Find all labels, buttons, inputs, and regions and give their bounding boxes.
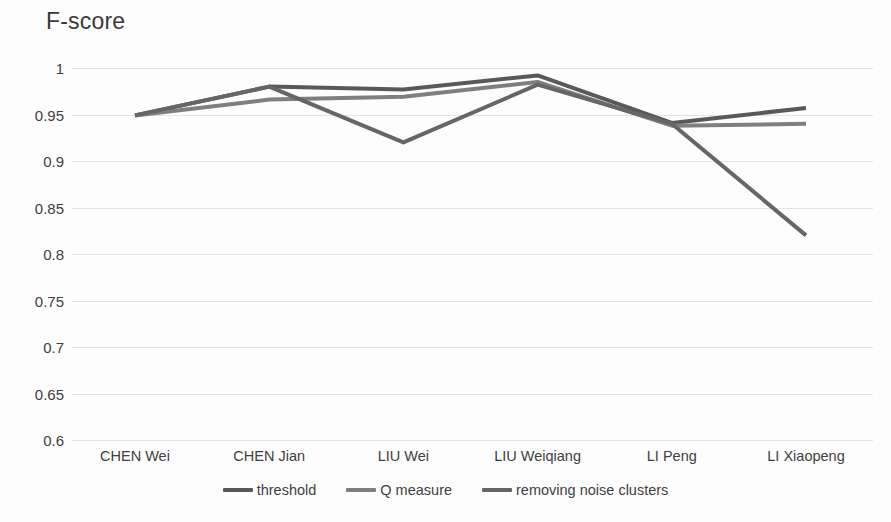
x-axis-tick-label: LI Xiaopeng <box>767 448 844 464</box>
series-line <box>135 85 806 236</box>
y-axis-tick-label: 0.65 <box>6 385 64 402</box>
y-axis-tick-label: 1 <box>6 60 64 77</box>
f-score-line-chart: F-score 10.950.90.850.80.750.70.650.6 CH… <box>0 0 891 522</box>
gridline <box>72 440 873 441</box>
x-axis-tick-label: CHEN Wei <box>100 448 170 464</box>
legend-line-swatch <box>223 488 253 492</box>
y-axis-tick-label: 0.95 <box>6 106 64 123</box>
y-axis-tick-label: 0.7 <box>6 339 64 356</box>
y-axis-tick-label: 0.75 <box>6 292 64 309</box>
x-axis-tick-label: LIU Weiqiang <box>494 448 581 464</box>
legend-item[interactable]: Q measure <box>346 482 452 498</box>
x-axis-tick-label: LIU Wei <box>378 448 429 464</box>
chart-legend: thresholdQ measureremoving noise cluster… <box>0 482 891 498</box>
legend-label: threshold <box>257 482 317 498</box>
legend-item[interactable]: removing noise clusters <box>482 482 668 498</box>
y-axis-tick-label: 0.9 <box>6 153 64 170</box>
legend-item[interactable]: threshold <box>223 482 317 498</box>
legend-line-swatch <box>346 488 376 492</box>
x-axis-tick-label: CHEN Jian <box>233 448 305 464</box>
y-axis-tick-label: 0.6 <box>6 432 64 449</box>
y-axis-tick-label: 0.8 <box>6 246 64 263</box>
chart-title: F-score <box>46 8 125 35</box>
series-lines <box>72 68 873 440</box>
legend-label: Q measure <box>380 482 452 498</box>
y-axis: 10.950.90.850.80.750.70.650.6 <box>0 68 64 440</box>
y-axis-tick-label: 0.85 <box>6 199 64 216</box>
series-line <box>135 75 806 123</box>
x-axis: CHEN WeiCHEN JianLIU WeiLIU WeiqiangLI P… <box>72 448 873 474</box>
legend-label: removing noise clusters <box>516 482 668 498</box>
plot-area <box>72 68 873 440</box>
x-axis-tick-label: LI Peng <box>647 448 697 464</box>
legend-line-swatch <box>482 488 512 492</box>
